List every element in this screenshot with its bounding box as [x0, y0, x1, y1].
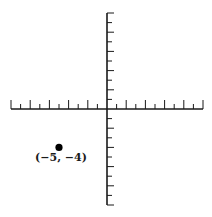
- coordinate-plane: [0, 0, 212, 217]
- point-label: (−5, −4): [35, 151, 87, 164]
- plotted-points: [55, 144, 62, 151]
- plotted-point: [55, 144, 62, 151]
